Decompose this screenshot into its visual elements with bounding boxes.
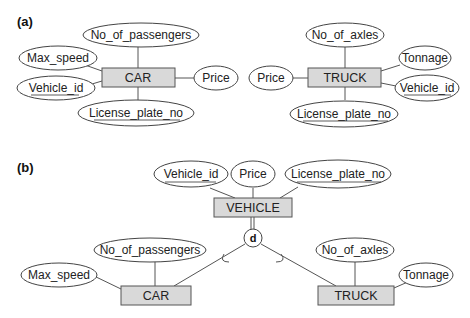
attr-vehicle-id: Vehicle_id [395,75,459,101]
svg-text:No_of_axles: No_of_axles [312,28,379,42]
svg-text:License_plate_no: License_plate_no [291,167,385,181]
entity-vehicle: VEHICLE [214,198,292,217]
connector [381,83,396,86]
svg-text:License_plate_no: License_plate_no [89,106,183,120]
attr-tonnage: Tonnage [399,46,451,70]
svg-text:No_of_passengers: No_of_passengers [91,28,192,42]
attr-license-plate-no: License_plate_no [285,160,391,188]
svg-text:TRUCK: TRUCK [334,289,378,303]
attr-price: Price [249,66,293,90]
svg-text:No_of_passengers: No_of_passengers [100,243,201,257]
svg-text:Price: Price [239,167,267,181]
svg-text:Vehicle_id: Vehicle_id [164,167,219,181]
svg-text:CAR: CAR [125,71,151,85]
connector [280,187,298,198]
svg-text:Max_speed: Max_speed [27,51,89,65]
er-diagram: (a) No_of_passengers Max_speed Vehicle_i… [0,0,470,318]
attr-tonnage: Tonnage [399,263,453,287]
attr-no-of-passengers: No_of_passengers [94,238,206,262]
svg-text:TRUCK: TRUCK [323,71,367,85]
connector [381,65,400,71]
svg-text:Max_speed: Max_speed [28,268,90,282]
svg-text:No_of_axles: No_of_axles [322,243,389,257]
svg-text:d: d [250,232,257,244]
attr-max-speed: Max_speed [19,46,97,70]
svg-text:Vehicle_id: Vehicle_id [400,81,455,95]
attr-no-of-axles: No_of_axles [306,23,384,47]
attr-price: Price [231,161,275,187]
entity-car: CAR [121,286,191,305]
attr-price: Price [194,66,238,90]
attr-max-speed: Max_speed [21,263,97,287]
svg-text:Vehicle_id: Vehicle_id [29,81,84,95]
svg-text:Price: Price [202,71,230,85]
subset-symbol-truck [276,254,283,262]
svg-text:Tonnage: Tonnage [403,268,449,282]
attr-license-plate-no: License_plate_no [78,100,194,126]
disjoint-circle: d [244,229,262,247]
attr-vehicle-id: Vehicle_id [154,161,228,187]
attr-no-of-axles: No_of_axles [316,238,394,262]
attr-license-plate-no: License_plate_no [290,101,398,127]
svg-text:CAR: CAR [143,289,169,303]
connector [210,188,235,198]
svg-text:VEHICLE: VEHICLE [226,201,280,215]
svg-text:Tonnage: Tonnage [402,51,448,65]
part-b-label: (b) [17,160,34,175]
attr-no-of-passengers: No_of_passengers [83,23,199,47]
entity-truck: TRUCK [308,68,381,87]
svg-text:Price: Price [257,71,285,85]
svg-text:License_plate_no: License_plate_no [297,107,391,121]
entity-car: CAR [102,68,175,87]
entity-truck: TRUCK [318,286,394,305]
part-a-label: (a) [17,14,33,29]
attr-vehicle-id: Vehicle_id [17,76,95,100]
connector [92,81,102,84]
